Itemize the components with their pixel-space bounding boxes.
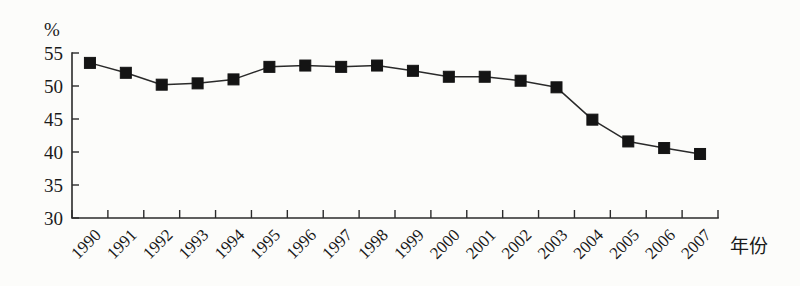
data-point-marker [551, 82, 562, 93]
data-point-marker [587, 114, 598, 125]
y-tick-label: 50 [44, 76, 63, 97]
x-tick-label: 1993 [175, 225, 212, 262]
x-tick-label: 1991 [103, 225, 140, 262]
data-point-marker [192, 78, 203, 89]
x-axis-title: 年份 [730, 236, 768, 257]
y-tick-label: 40 [44, 142, 63, 163]
x-tick-label: 2007 [677, 225, 715, 263]
x-tick-label: 2006 [642, 225, 679, 262]
data-point-marker [336, 61, 347, 72]
data-point-marker [84, 57, 95, 68]
data-point-marker [443, 71, 454, 82]
x-tick-label: 2005 [606, 225, 643, 262]
x-tick-label: 1992 [139, 225, 176, 262]
data-point-marker [156, 79, 167, 90]
data-point-marker [300, 60, 311, 71]
x-tick-label: 1999 [390, 225, 427, 262]
x-tick-label: 2002 [498, 225, 535, 262]
x-tick-label: 1995 [247, 225, 284, 262]
line-chart: %303540455055199019911992199319941995199… [0, 0, 800, 286]
x-tick-label: 2003 [534, 225, 571, 262]
data-point-marker [264, 61, 275, 72]
data-point-marker [372, 60, 383, 71]
y-tick-label: 45 [44, 109, 63, 130]
data-point-marker [623, 136, 634, 147]
y-tick-label: 35 [44, 175, 63, 196]
x-tick-label: 1996 [283, 225, 320, 262]
x-tick-label: 1990 [67, 225, 104, 262]
x-tick-label: 2004 [570, 225, 608, 263]
data-point-marker [515, 75, 526, 86]
x-tick-label: 2001 [462, 225, 499, 262]
data-point-marker [228, 74, 239, 85]
x-tick-label: 1998 [354, 225, 391, 262]
y-tick-label: 55 [44, 43, 63, 64]
data-point-marker [695, 148, 706, 159]
data-point-marker [479, 71, 490, 82]
chart-figure: %303540455055199019911992199319941995199… [0, 0, 800, 286]
x-tick-label: 2000 [426, 225, 463, 262]
series-line [90, 63, 700, 154]
y-axis-unit-label: % [44, 19, 60, 40]
y-tick-label: 30 [44, 208, 63, 229]
data-point-marker [407, 65, 418, 76]
data-point-marker [659, 143, 670, 154]
data-point-marker [120, 67, 131, 78]
chart-axes [72, 53, 718, 218]
x-tick-label: 1994 [211, 225, 249, 263]
x-tick-label: 1997 [319, 225, 357, 263]
